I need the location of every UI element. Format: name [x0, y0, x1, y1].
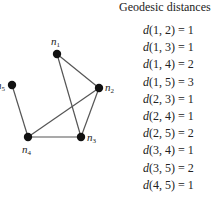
node-label-n3: n3 [87, 131, 97, 145]
edge-n1-n3 [57, 54, 81, 137]
distance-row: d(3, 5) = 2 [143, 160, 194, 177]
distance-row: d(1, 3) = 1 [143, 39, 194, 56]
distance-row: d(2, 5) = 2 [143, 125, 194, 142]
distance-row: d(3, 4) = 1 [143, 142, 194, 159]
node-n4 [24, 133, 32, 141]
distance-list: d(1, 2) = 1 d(1, 3) = 1 d(1, 4) = 2 d(1,… [143, 22, 194, 194]
node-n2 [95, 84, 103, 92]
distance-row: d(1, 5) = 3 [143, 74, 194, 91]
distances-title: Geodesic distances [119, 0, 211, 15]
distance-row: d(4, 5) = 1 [143, 177, 194, 194]
distance-row: d(1, 4) = 2 [143, 56, 194, 73]
edge-n2-n4 [28, 88, 99, 137]
node-label-n4: n4 [22, 143, 32, 157]
node-label-n5: n5 [0, 79, 6, 93]
distance-row: d(2, 3) = 1 [143, 91, 194, 108]
distance-row: d(2, 4) = 1 [143, 108, 194, 125]
node-n3 [77, 133, 85, 141]
node-n5 [8, 81, 16, 89]
edge-n1-n2 [57, 54, 99, 88]
node-label-n2: n2 [105, 81, 115, 95]
node-label-n1: n1 [51, 35, 61, 49]
node-n1 [53, 50, 61, 58]
network-graph: n1n2n3n4n5 [0, 0, 120, 170]
edge-n2-n3 [81, 88, 99, 137]
distance-row: d(1, 2) = 1 [143, 22, 194, 39]
edge-n4-n5 [12, 85, 28, 137]
